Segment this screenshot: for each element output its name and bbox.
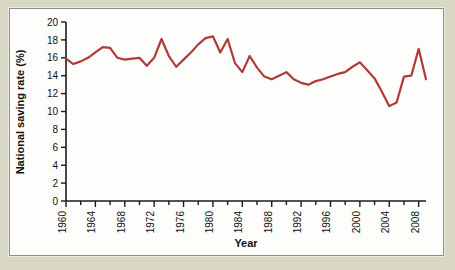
x-tick-label: 2000 — [351, 211, 362, 234]
figure-page: 02468101214161820 1960196419681972197619… — [0, 0, 455, 270]
x-axis-title: Year — [234, 237, 258, 249]
y-tick-label: 12 — [47, 88, 59, 99]
y-tick-label: 18 — [47, 35, 59, 46]
line-chart: 02468101214161820 1960196419681972197619… — [10, 9, 442, 254]
x-tick-label: 1988 — [263, 211, 274, 234]
x-tick-label: 2004 — [380, 211, 391, 234]
x-tick-label: 1960 — [57, 211, 68, 234]
y-tick-label: 2 — [52, 178, 58, 189]
chart-card: 02468101214161820 1960196419681972197619… — [9, 8, 444, 256]
y-tick-label: 8 — [52, 124, 58, 135]
y-tick-label: 0 — [52, 196, 58, 207]
saving-rate-line — [66, 36, 426, 106]
y-tick-label: 16 — [47, 52, 59, 63]
y-tick-label: 10 — [47, 106, 59, 117]
chart-plot-area: 02468101214161820 1960196419681972197619… — [10, 9, 443, 255]
x-tick-label: 1992 — [292, 211, 303, 234]
x-tick-label: 1964 — [86, 211, 97, 234]
y-axis-title: National saving rate (%) — [14, 49, 26, 174]
x-tick-label: 1984 — [233, 211, 244, 234]
x-axis-tick-labels: 1960196419681972197619801984198819921996… — [57, 211, 421, 234]
x-tick-label: 1996 — [321, 211, 332, 234]
x-tick-label: 1968 — [116, 211, 127, 234]
x-tick-label: 2008 — [410, 211, 421, 234]
y-axis-tick-labels: 02468101214161820 — [47, 17, 59, 207]
x-tick-label: 1980 — [204, 211, 215, 234]
x-tick-label: 1972 — [145, 211, 156, 234]
x-axis-ticks — [66, 201, 419, 207]
y-tick-label: 6 — [52, 142, 58, 153]
y-tick-label: 20 — [47, 17, 59, 28]
y-tick-label: 4 — [52, 160, 58, 171]
x-tick-label: 1976 — [175, 211, 186, 234]
chart-axes — [66, 22, 426, 201]
y-tick-label: 14 — [47, 70, 59, 81]
